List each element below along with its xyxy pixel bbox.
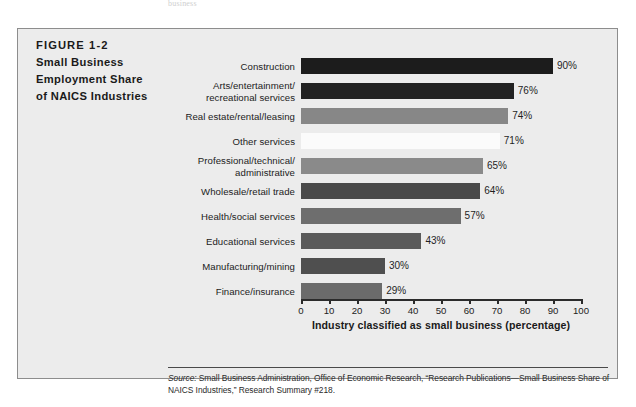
- x-axis-tick: [469, 299, 471, 304]
- bar-value-label: 43%: [425, 235, 445, 246]
- x-axis-tick: [553, 299, 555, 304]
- bar-value-label: 74%: [512, 110, 532, 121]
- bar-category-label-line-2: administrative: [135, 167, 295, 179]
- bar-category-label-line-2: recreational services: [135, 92, 295, 104]
- bar-row: Construction90%: [166, 55, 596, 80]
- bar: [301, 133, 500, 149]
- bar-category-label: Other services: [135, 136, 295, 148]
- x-axis-tick: [329, 299, 331, 304]
- bar-row: Manufacturing/mining30%: [166, 255, 596, 280]
- x-axis-tick-label: 10: [324, 305, 335, 316]
- bar-category-label-line-1: Professional/technical/: [135, 155, 295, 167]
- bar-row: Arts/entertainment/recreational services…: [166, 80, 596, 105]
- source-label: Source:: [168, 373, 197, 383]
- bar-category-label: Manufacturing/mining: [135, 261, 295, 273]
- bar-category-label: Construction: [135, 61, 295, 73]
- bar-row: Real estate/rental/leasing74%: [166, 105, 596, 130]
- bar-chart-plot: Construction90%Arts/entertainment/recrea…: [166, 49, 596, 329]
- bar-row: Health/social services57%: [166, 205, 596, 230]
- bar-category-label: Wholesale/retail trade: [135, 186, 295, 198]
- bar: [301, 283, 382, 299]
- bar-category-label: Health/social services: [135, 211, 295, 223]
- x-axis-tick: [413, 299, 415, 304]
- bar-value-label: 65%: [487, 160, 507, 171]
- figure-number: FIGURE 1-2: [36, 37, 166, 54]
- bar-value-label: 90%: [557, 60, 577, 71]
- x-axis-tick-label: 30: [380, 305, 391, 316]
- bar-category-label: Finance/insurance: [135, 286, 295, 298]
- bar-row: Wholesale/retail trade64%: [166, 180, 596, 205]
- x-axis-tick: [497, 299, 499, 304]
- x-axis-tick-label: 100: [573, 305, 589, 316]
- bar: [301, 208, 461, 224]
- bar-category-label-line-1: Arts/entertainment/: [135, 80, 295, 92]
- source-note: Source: Small Business Administration, O…: [168, 373, 610, 396]
- x-axis-title: Industry classified as small business (p…: [301, 319, 581, 331]
- page-cutoff-text: business: [168, 0, 197, 8]
- bar-row: Professional/technical/administrative65%: [166, 155, 596, 180]
- bar-row: Other services71%: [166, 130, 596, 155]
- bar: [301, 233, 421, 249]
- bar-row: Finance/insurance29%: [166, 280, 596, 305]
- bar: [301, 258, 385, 274]
- bar: [301, 183, 480, 199]
- x-axis-tick-label: 40: [408, 305, 419, 316]
- source-text: Small Business Administration, Office of…: [168, 373, 609, 395]
- bar-value-label: 76%: [518, 85, 538, 96]
- bar-category-label: Professional/technical/administrative: [135, 155, 295, 178]
- x-axis-tick: [581, 299, 583, 304]
- bar-category-label: Real estate/rental/leasing: [135, 111, 295, 123]
- bar: [301, 158, 483, 174]
- x-axis-tick-label: 20: [352, 305, 363, 316]
- x-axis-tick-label: 50: [436, 305, 447, 316]
- x-axis-tick: [441, 299, 443, 304]
- x-axis-tick: [385, 299, 387, 304]
- x-axis-tick-label: 60: [464, 305, 475, 316]
- x-axis-tick: [525, 299, 527, 304]
- x-axis-tick: [357, 299, 359, 304]
- bar-value-label: 57%: [465, 210, 485, 221]
- bar: [301, 58, 553, 74]
- bar: [301, 108, 508, 124]
- x-axis-tick-label: 90: [548, 305, 559, 316]
- x-axis-tick-label: 80: [520, 305, 531, 316]
- bar-value-label: 64%: [484, 185, 504, 196]
- figure-panel: FIGURE 1-2 Small Business Employment Sha…: [17, 28, 618, 379]
- x-axis-tick: [301, 299, 303, 304]
- source-divider: [168, 367, 608, 368]
- bar: [301, 83, 514, 99]
- bar-category-label: Arts/entertainment/recreational services: [135, 80, 295, 103]
- x-axis-tick-label: 70: [492, 305, 503, 316]
- bar-value-label: 30%: [389, 260, 409, 271]
- bar-value-label: 71%: [504, 135, 524, 146]
- bar-value-label: 29%: [386, 285, 406, 296]
- x-axis-tick-label: 0: [298, 305, 303, 316]
- bar-category-label: Educational services: [135, 236, 295, 248]
- bar-row: Educational services43%: [166, 230, 596, 255]
